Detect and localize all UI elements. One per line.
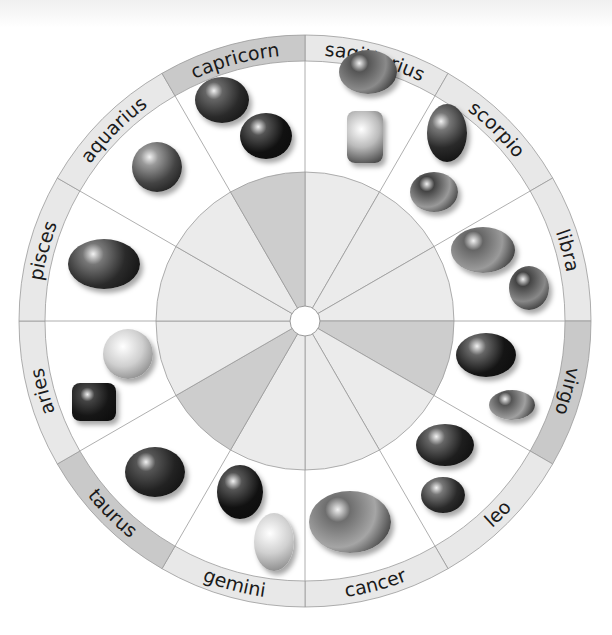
gem-virgo-1 bbox=[456, 333, 516, 377]
gem-capricorn-1 bbox=[195, 77, 249, 123]
gem-virgo-2 bbox=[489, 390, 535, 420]
gem-capricorn-2 bbox=[240, 113, 292, 159]
center-hole bbox=[290, 306, 320, 336]
gem-scorpio-1 bbox=[427, 104, 467, 162]
gem-libra-1 bbox=[451, 227, 515, 273]
sign-label-scorpio: scorpio bbox=[465, 96, 530, 161]
gem-cancer-1 bbox=[309, 491, 391, 553]
gem-gemini-2 bbox=[254, 513, 294, 571]
zodiac-wheel: sagittariusscorpiolibravirgoleocancergem… bbox=[0, 0, 612, 635]
gem-scorpio-2 bbox=[410, 172, 458, 212]
gem-taurus-1 bbox=[125, 447, 185, 497]
gem-gemini-1 bbox=[217, 465, 263, 519]
gem-aquarius-1 bbox=[132, 142, 182, 192]
gem-aries-1 bbox=[103, 329, 153, 379]
gem-leo-2 bbox=[421, 477, 465, 513]
gem-sagittarius-2 bbox=[347, 111, 383, 163]
gem-aries-2 bbox=[72, 383, 116, 421]
gem-libra-2 bbox=[509, 266, 549, 310]
gem-leo-1 bbox=[416, 424, 474, 466]
gem-pisces-1 bbox=[68, 239, 140, 289]
gem-sagittarius-1 bbox=[339, 50, 397, 94]
